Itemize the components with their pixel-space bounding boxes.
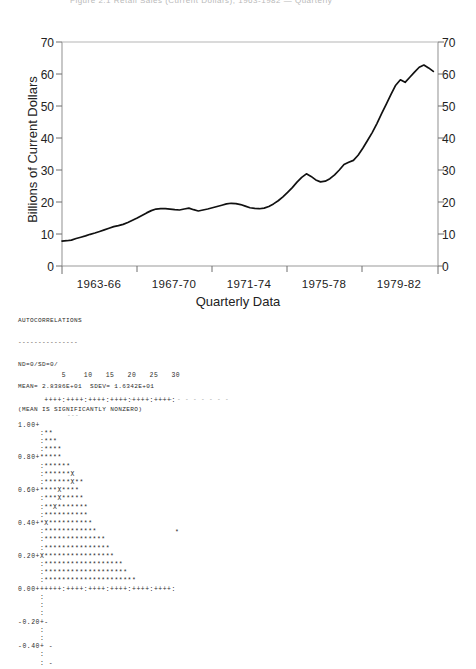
y-ticks-right: [438, 42, 444, 266]
line-chart: Billions of Current Dollars 70 60 50 40 …: [0, 12, 476, 312]
acf-row: :: [18, 610, 458, 618]
acf-row: :: [18, 627, 458, 635]
acf-row: :**************: [18, 536, 458, 544]
acf-row: :: [18, 651, 458, 659]
acf-outlier-marker: *: [175, 529, 179, 536]
x-tick-label-1963-66: 1963-66: [77, 278, 121, 290]
acf-row: :: [18, 635, 458, 643]
acf-lag-axis-rule: ++++:++++:++++:++++:++++:++++:: [18, 397, 458, 405]
acf-row: 0.00++++++:++++:++++:++++:++++:++++:: [18, 586, 458, 594]
acf-row: :**: [18, 430, 458, 438]
acf-row: 0.40+*X**********: [18, 520, 458, 528]
x-tick-label-1979-82: 1979-82: [377, 278, 421, 290]
x-ticks: [62, 266, 438, 274]
plot-area: [0, 12, 476, 312]
acf-row: :***************: [18, 545, 458, 553]
x-tick-label-1971-74: 1971-74: [227, 278, 271, 290]
acf-lag-axis-labels: 5 10 15 20 25 30: [18, 372, 458, 380]
acf-confidence-band-upper: - - - - - - - - - - - - - -: [121, 396, 229, 403]
acf-underline: ---------------: [18, 339, 458, 346]
acf-row: :: [18, 594, 458, 602]
y-ticks-left: [56, 42, 62, 266]
acf-row-group: 1.00+ :** :*** :****0.80+***** :****** :…: [18, 422, 458, 668]
acf-row: 0.60+****X****: [18, 487, 458, 495]
acf-row: :**********: [18, 512, 458, 520]
acf-row: 1.00+: [18, 422, 458, 430]
acf-row: :: [18, 602, 458, 610]
acf-heading: AUTOCORRELATIONS: [18, 317, 458, 324]
acf-row: :******X**: [18, 479, 458, 487]
data-series-line: [62, 65, 433, 241]
acf-row: :******************: [18, 561, 458, 569]
acf-confidence-band-lower: ---: [67, 412, 79, 419]
x-tick-label-1975-78: 1975-78: [302, 278, 346, 290]
acf-row: 0.20+X****************: [18, 553, 458, 561]
acf-row: :*********************: [18, 577, 458, 585]
acf-row: -0.20+-: [18, 619, 458, 627]
acf-row: -0.40+ -: [18, 643, 458, 651]
acf-row: :****: [18, 446, 458, 454]
acf-row: :**X*******: [18, 504, 458, 512]
acf-row: 0.80+*****: [18, 454, 458, 462]
acf-row: : -: [18, 660, 458, 668]
acf-row: :******: [18, 463, 458, 471]
acf-row: :***X*****: [18, 495, 458, 503]
acf-row: :******X: [18, 471, 458, 479]
acf-row: :*******************: [18, 569, 458, 577]
acf-row: :***: [18, 438, 458, 446]
acf-row: :************: [18, 528, 458, 536]
x-tick-label-1967-70: 1967-70: [152, 278, 196, 290]
page-title: Figure 2.1 Retail Sales (Current Dollars…: [70, 0, 470, 6]
autocorrelation-plot: 5 10 15 20 25 30 ++++:++++:++++:++++:+++…: [18, 356, 458, 669]
